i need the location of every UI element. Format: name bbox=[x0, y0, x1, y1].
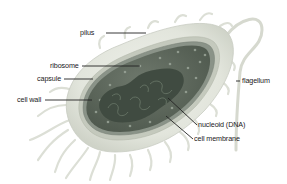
label-cell-wall: cell wall bbox=[17, 96, 41, 103]
label-capsule: capsule bbox=[37, 75, 61, 82]
cell-illustration bbox=[0, 0, 287, 184]
label-nucleoid: nucleoid (DNA) bbox=[198, 121, 245, 128]
bacterial-cell-diagram: pilus ribosome capsule cell wall flagell… bbox=[0, 0, 287, 184]
label-ribosome: ribosome bbox=[50, 62, 79, 69]
label-cell-membrane: cell membrane bbox=[194, 135, 240, 142]
label-pilus: pilus bbox=[80, 29, 94, 36]
label-flagellum: flagellum bbox=[242, 77, 270, 84]
